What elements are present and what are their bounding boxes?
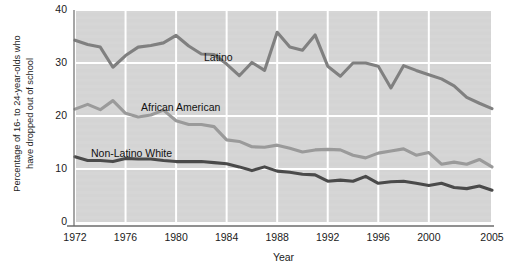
x-axis-title: Year	[254, 251, 314, 263]
series-label-non-latino-white: Non-Latino White	[91, 147, 172, 159]
plot-canvas	[0, 0, 520, 266]
dropout-rate-line-chart: Percentage of 16- to 24-year-olds who ha…	[0, 0, 520, 266]
series-label-african-american: African American	[141, 101, 220, 113]
series-label-latino: Latino	[204, 51, 233, 63]
